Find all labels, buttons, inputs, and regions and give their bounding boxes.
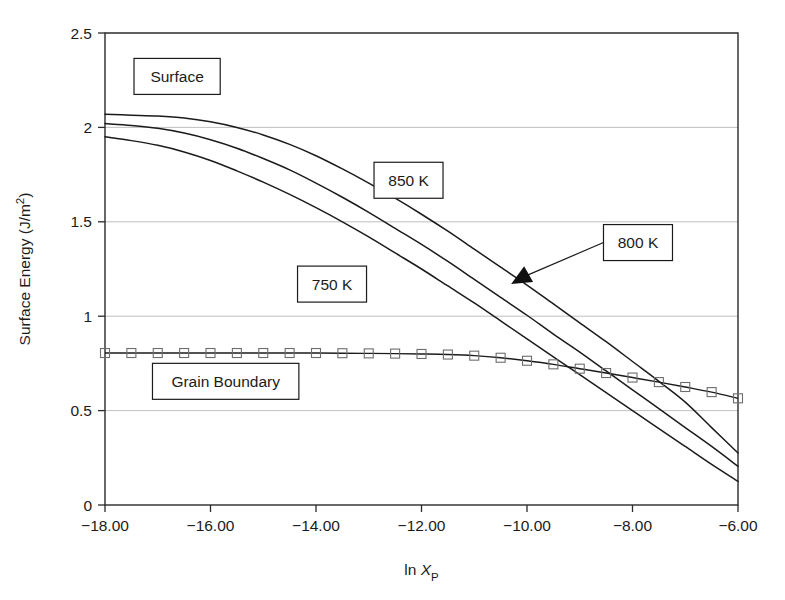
annotation-arrowhead <box>511 266 533 284</box>
x-tick-label: −12.00 <box>398 517 446 534</box>
annotation-label-t750: 750 K <box>312 276 353 293</box>
x-axis-ticks-group <box>105 505 738 512</box>
x-tick-label: −6.00 <box>718 517 758 534</box>
y-axis-ticks-group <box>98 33 105 505</box>
x-tick-label: −10.00 <box>503 517 551 534</box>
annotation-label-grain_boundary: Grain Boundary <box>171 373 280 390</box>
y-tick-label: 1 <box>83 308 92 325</box>
y-tick-label: 2 <box>83 119 92 136</box>
x-tick-label: −18.00 <box>81 517 129 534</box>
y-tick-label: 0.5 <box>70 402 92 419</box>
y-tick-label: 2.5 <box>70 25 92 42</box>
annotation-label-surface: Surface <box>150 68 203 85</box>
annotation-leader-group <box>511 243 603 285</box>
x-tick-label: −16.00 <box>187 517 235 534</box>
x-tick-label: −14.00 <box>292 517 340 534</box>
annotation-label-t800: 800 K <box>618 234 659 251</box>
x-tick-label: −8.00 <box>613 517 653 534</box>
x-axis-title: ln XP <box>404 561 439 583</box>
y-axis-title: Surface Energy (J/m2) <box>14 193 33 346</box>
y-axis-tick-labels-group: 00.511.522.5 <box>70 25 92 514</box>
chart-figure: −18.00−16.00−14.00−12.00−10.00−8.00−6.00… <box>0 0 785 600</box>
surface-energy-line-chart: −18.00−16.00−14.00−12.00−10.00−8.00−6.00… <box>0 0 785 600</box>
annotation-leader-line <box>525 243 603 277</box>
annotation-label-t850: 850 K <box>388 172 429 189</box>
x-axis-tick-labels-group: −18.00−16.00−14.00−12.00−10.00−8.00−6.00 <box>81 517 758 534</box>
y-tick-label: 1.5 <box>70 213 92 230</box>
y-tick-label: 0 <box>83 497 92 514</box>
